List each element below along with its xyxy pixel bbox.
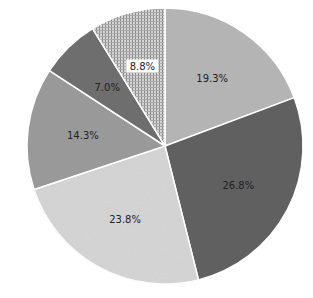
slice-label: 8.8%: [127, 60, 158, 73]
slice-label: 7.0%: [94, 81, 119, 92]
slice-label: 23.8%: [109, 213, 141, 224]
pie-chart: [0, 0, 313, 298]
slice-label: 19.3%: [196, 72, 228, 83]
pie-slices: [27, 8, 303, 284]
slice-label: 26.8%: [222, 179, 254, 190]
slice-label: 14.3%: [67, 130, 99, 141]
